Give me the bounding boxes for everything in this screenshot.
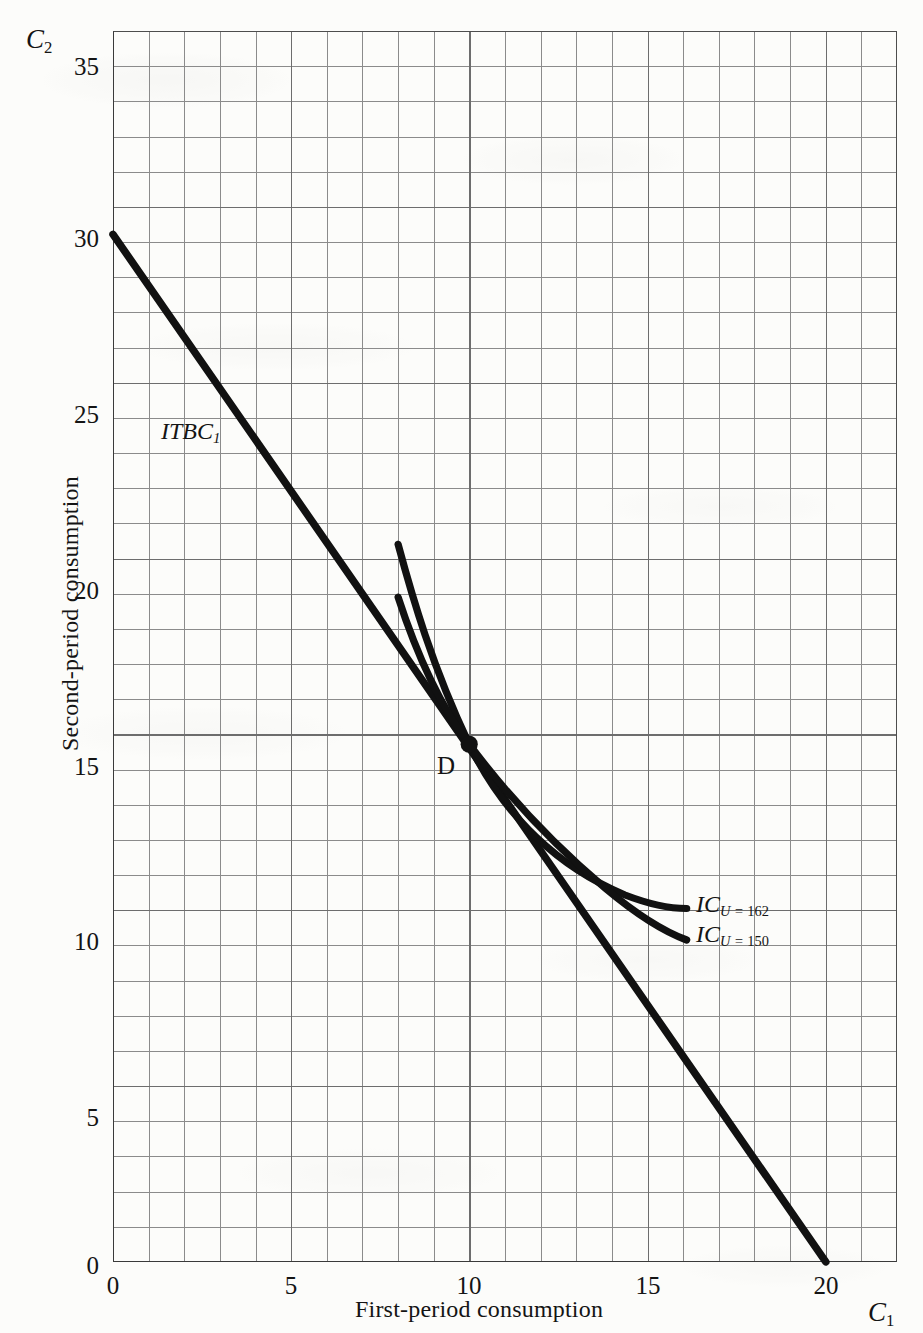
- x-axis-symbol-letter: C: [868, 1297, 886, 1327]
- y-tick-5: 5: [0, 1104, 99, 1132]
- y-axis-symbol-letter: C: [26, 24, 44, 54]
- x-tick-15: 15: [618, 1272, 678, 1300]
- x-axis-title: First-period consumption: [355, 1296, 603, 1323]
- x-axis-title-text: First-period consumption: [355, 1296, 603, 1322]
- ic-150-curve-label: ICU = 150: [696, 921, 769, 950]
- x-axis-symbol: C1: [868, 1297, 894, 1331]
- y-tick-15: 15: [0, 753, 99, 781]
- figure-canvas: 35 30 25 20 15 10 5 0 0 5 10 15 20 Secon…: [0, 0, 923, 1333]
- ic-162-label-var: U =: [720, 903, 747, 919]
- y-axis-symbol: C2: [26, 24, 52, 58]
- ic-150-label-text: IC: [696, 921, 720, 947]
- y-tick-25: 25: [0, 401, 99, 429]
- itbc-curve-label: ITBC1: [161, 418, 220, 447]
- x-tick-5: 5: [261, 1272, 321, 1300]
- y-tick-10: 10: [0, 928, 99, 956]
- ic-150-label-value: 150: [747, 933, 769, 949]
- x-axis-symbol-subscript: 1: [886, 1311, 894, 1330]
- ic-162-label-text: IC: [696, 891, 720, 917]
- y-axis-title: Second-period consumption: [57, 304, 84, 924]
- ic-162-curve-label: ICU = 162: [696, 891, 769, 920]
- y-axis-symbol-subscript: 2: [44, 38, 52, 57]
- y-tick-30: 30: [0, 225, 99, 253]
- itbc-label-subscript: 1: [213, 430, 220, 446]
- plot-major-gridlines: [113, 31, 897, 1262]
- x-tick-20: 20: [796, 1272, 856, 1300]
- point-d-label: D: [437, 752, 455, 780]
- ic-162-label-value: 162: [747, 903, 769, 919]
- ic-150-label-var: U =: [720, 933, 747, 949]
- y-tick-20: 20: [0, 577, 99, 605]
- y-axis-title-text: Second-period consumption: [57, 476, 83, 751]
- x-tick-0: 0: [83, 1272, 143, 1300]
- itbc-label-text: ITBC: [161, 418, 213, 444]
- plot-frame: [113, 31, 897, 1262]
- plot-grid: [113, 31, 897, 1262]
